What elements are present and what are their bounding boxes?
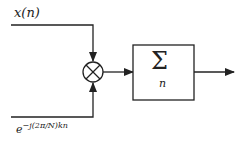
multiplier-icon: [83, 62, 103, 82]
input-signal-wire: [11, 25, 93, 61]
summation-subscript: n: [159, 77, 166, 90]
summation-symbol: Σ: [151, 47, 168, 75]
kernel-wire: [11, 83, 93, 117]
kernel-exponent: −j(2π/N)kn: [23, 121, 68, 130]
input-signal-label: x(n): [14, 5, 40, 20]
kernel-label: e−j(2π/N)kn: [16, 121, 68, 136]
